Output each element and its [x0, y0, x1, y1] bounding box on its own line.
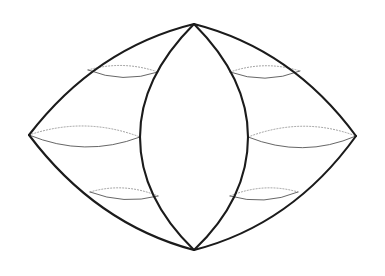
- outer-upper-right-edge: [194, 24, 356, 136]
- left-upper-latitude-front-arc: [88, 70, 158, 78]
- lens-surface-figure: [0, 0, 385, 276]
- outer-lower-right-edge: [194, 136, 356, 250]
- right-upper-latitude-front-arc: [230, 71, 300, 78]
- left-lower-latitude-front-arc: [90, 192, 158, 200]
- outer-upper-left-edge: [29, 24, 194, 135]
- latitude-back-group: [29, 65, 356, 196]
- left-middle-latitude-back-arc: [29, 126, 140, 137]
- right-lower-latitude-back-arc: [230, 188, 298, 196]
- outer-outline-group: [29, 24, 356, 250]
- outer-lower-left-edge: [29, 135, 194, 250]
- diagram-canvas: [0, 0, 385, 276]
- right-middle-latitude-back-arc: [248, 126, 356, 137]
- latitude-front-group: [29, 70, 356, 200]
- central-lens-group: [140, 24, 248, 250]
- left-lower-latitude-back-arc: [90, 188, 158, 196]
- lens-right-meridian: [194, 24, 248, 250]
- right-lower-latitude-front-arc: [230, 192, 298, 200]
- lens-left-meridian: [140, 24, 194, 250]
- left-middle-latitude-front-arc: [29, 135, 140, 147]
- right-middle-latitude-front-arc: [248, 136, 356, 148]
